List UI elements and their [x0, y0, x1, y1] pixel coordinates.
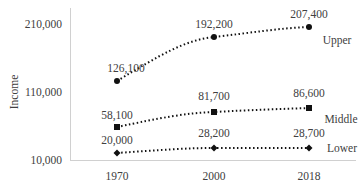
marker-circle-icon — [211, 34, 217, 40]
data-label: 126,100 — [107, 62, 145, 75]
chart-canvas: 210,000 110,000 10,000 Income 1970 2000 … — [0, 0, 364, 185]
marker-diamond-icon — [114, 150, 121, 157]
series-label-upper: Upper — [323, 34, 352, 47]
data-label: 28,700 — [293, 127, 325, 140]
marker-square-icon — [211, 109, 217, 115]
series-label-lower: Lower — [327, 142, 357, 154]
marker-circle-icon — [306, 24, 312, 30]
marker-diamond-icon — [306, 145, 313, 152]
marker-square-icon — [114, 124, 120, 130]
x-tick-label: 2018 — [298, 170, 321, 182]
data-label: 58,100 — [101, 109, 133, 122]
data-label: 86,600 — [293, 87, 325, 100]
data-label: 20,000 — [101, 134, 133, 147]
marker-diamond-icon — [211, 145, 218, 152]
data-label: 28,200 — [198, 127, 230, 140]
data-label: 81,700 — [198, 90, 230, 103]
y-tick-label: 110,000 — [25, 86, 62, 99]
x-tick-label: 1970 — [106, 170, 129, 182]
marker-square-icon — [306, 105, 312, 111]
series-label-middle: Middle — [324, 113, 357, 125]
y-tick-label: 10,000 — [30, 154, 62, 167]
x-tick-label: 2000 — [203, 170, 226, 182]
data-label: 192,200 — [195, 18, 233, 31]
marker-circle-icon — [114, 78, 120, 84]
y-axis-label: Income — [8, 75, 20, 109]
y-tick-label: 210,000 — [25, 18, 63, 31]
income-chart: 210,000 110,000 10,000 Income 1970 2000 … — [0, 0, 364, 185]
data-label: 207,400 — [290, 8, 328, 21]
